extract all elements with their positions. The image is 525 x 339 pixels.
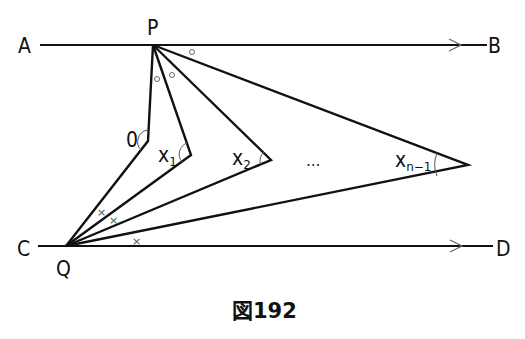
figure-caption: 図192	[232, 299, 297, 323]
label-angle-x2: x2	[232, 146, 251, 172]
geometry-figure: × × × A P B C Q D 0 x1 x2 … xn−1 図192	[0, 0, 525, 339]
equal-angle-circle-marker	[170, 73, 175, 78]
label-point-b: B	[488, 34, 501, 58]
label-point-c: C	[17, 237, 30, 261]
equal-angle-circle-marker	[190, 50, 195, 55]
label-point-q: Q	[56, 257, 71, 281]
label-angle-0: 0	[126, 128, 138, 152]
label-angle-x1: x1	[158, 143, 177, 169]
equal-angle-cross-marker: ×	[132, 235, 141, 248]
equal-angle-cross-marker: ×	[97, 206, 106, 219]
label-point-p: P	[147, 16, 158, 40]
equal-angle-cross-marker: ×	[109, 214, 118, 227]
label-point-d: D	[496, 237, 511, 261]
equal-angle-circle-marker	[155, 77, 160, 82]
label-angle-xn-1: xn−1	[395, 148, 431, 174]
label-point-a: A	[18, 34, 31, 58]
label-ellipsis: …	[306, 151, 320, 170]
